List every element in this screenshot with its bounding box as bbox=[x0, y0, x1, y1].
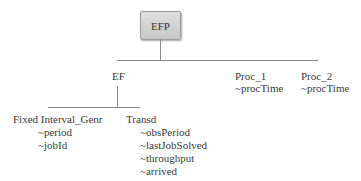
node-proc1-attr-proctime: ~procTime bbox=[235, 82, 283, 94]
node-transd-attr-lastjobsolved: ~lastJobSolved bbox=[140, 139, 207, 151]
node-proc2-attr-proctime: ~procTime bbox=[301, 82, 349, 94]
node-transd-attr-throughput: ~throughput bbox=[140, 152, 194, 164]
connector-level2-horizontal bbox=[48, 107, 140, 108]
node-efp-label: EFP bbox=[151, 20, 170, 32]
node-proc1-label: Proc_1 bbox=[235, 70, 266, 82]
connector-level1-horizontal bbox=[117, 60, 318, 61]
connector-ef-vertical bbox=[117, 86, 118, 107]
node-transd-attr-obsperiod: ~obsPeriod bbox=[140, 126, 190, 138]
node-fixed-interval-genr-attr-jobid: ~jobId bbox=[38, 139, 67, 151]
node-transd-attr-arrived: ~arrived bbox=[140, 165, 177, 177]
connector-root-vertical bbox=[160, 39, 161, 60]
node-fixed-interval-genr-attr-period: ~period bbox=[38, 126, 72, 138]
node-ef-label: EF bbox=[112, 70, 125, 82]
node-transd-label: Transd bbox=[126, 113, 156, 125]
node-efp: EFP bbox=[140, 11, 181, 40]
node-proc2-label: Proc_2 bbox=[301, 70, 332, 82]
node-fixed-interval-genr-label: Fixed Interval_Genr bbox=[13, 113, 103, 125]
